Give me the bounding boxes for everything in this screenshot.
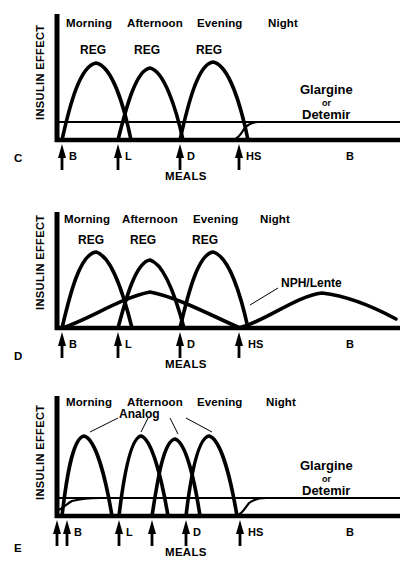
reg-label-3-c: REG xyxy=(196,43,222,57)
panel-letter-e: E xyxy=(14,542,22,554)
tod-label-night-e: Night xyxy=(266,396,296,408)
meal-marker-hs-d: HS xyxy=(235,332,263,358)
panel-e: INSULIN EFFECT Morning Afternoon Evening… xyxy=(0,376,407,566)
reg-label-1-d: REG xyxy=(78,233,104,247)
tod-label-night-d: Night xyxy=(260,213,290,225)
meal-label-b1-e: B xyxy=(74,526,82,538)
analog-peak-1-e xyxy=(62,436,112,516)
meal-marker-b1a-e xyxy=(53,520,61,546)
insulin-effect-figure: INSULIN EFFECT Morning Afternoon Evening… xyxy=(0,0,407,568)
meal-label-l-c: L xyxy=(125,150,132,162)
basal-glargine-curve-c xyxy=(232,122,400,140)
reg-label-1-c: REG xyxy=(80,43,106,57)
y-axis-label-e: INSULIN EFFECT xyxy=(34,405,46,500)
panel-letter-c: C xyxy=(14,152,22,164)
panel-d: INSULIN EFFECT Morning Afternoon Evening… xyxy=(0,188,407,378)
tod-label-afternoon-c: Afternoon xyxy=(127,17,183,29)
analog-leader-3-e xyxy=(170,418,178,434)
meal-marker-d-c: D xyxy=(176,144,195,170)
meal-marker-hs-c: HS xyxy=(235,144,261,170)
meal-label-d-c: D xyxy=(187,150,195,162)
panel-letter-d: D xyxy=(14,350,22,362)
meals-title-e: MEALS xyxy=(165,546,207,558)
nph-hump-2-d xyxy=(239,293,396,328)
basal-glargine-curve-e xyxy=(234,498,400,516)
basal-label-line1-e: Glargine xyxy=(300,458,353,473)
meal-label-hs-e: HS xyxy=(248,526,263,538)
meal-marker-d-d: D xyxy=(176,332,195,358)
meal-label-b1-c: B xyxy=(69,150,77,162)
meal-label-b2-e: B xyxy=(346,526,354,538)
y-axis-label-c: INSULIN EFFECT xyxy=(34,25,46,120)
meal-label-l-d: L xyxy=(125,338,132,350)
tod-label-afternoon-d: Afternoon xyxy=(122,213,178,225)
panel-c: INSULIN EFFECT Morning Afternoon Evening… xyxy=(0,0,407,190)
analog-peak-4-e xyxy=(186,436,237,516)
tod-label-morning-c: Morning xyxy=(66,17,112,29)
y-axis-label-d: INSULIN EFFECT xyxy=(34,215,46,310)
meal-label-l-e: L xyxy=(126,526,133,538)
meal-marker-l-d: L xyxy=(114,332,132,358)
meal-marker-d-e: D xyxy=(182,520,201,546)
meal-marker-l-e: L xyxy=(115,520,133,546)
meal-label-hs-d: HS xyxy=(248,338,263,350)
meal-marker-l-c: L xyxy=(114,144,132,170)
meal-label-b2-d: B xyxy=(346,338,354,350)
basal-label-line3-e: Detemir xyxy=(302,483,350,498)
tod-label-evening-d: Evening xyxy=(193,213,238,225)
tod-label-night-c: Night xyxy=(268,17,298,29)
meal-label-d-d: D xyxy=(187,338,195,350)
basal-label-line1-c: Glargine xyxy=(300,82,353,97)
meals-title-d: MEALS xyxy=(165,358,207,370)
meals-title-c: MEALS xyxy=(165,170,207,182)
meal-label-b1-d: B xyxy=(69,338,77,350)
nph-hump-1-d xyxy=(62,292,240,328)
meal-label-d-e: D xyxy=(193,526,201,538)
reg-label-3-d: REG xyxy=(192,233,218,247)
nph-label-d: NPH/Lente xyxy=(281,276,342,290)
meal-marker-hs-e: HS xyxy=(236,520,263,546)
nph-leader-line-d xyxy=(250,288,278,305)
tod-label-evening-c: Evening xyxy=(197,17,242,29)
tod-label-evening-e: Evening xyxy=(197,396,242,408)
tod-label-morning-e: Morning xyxy=(66,396,112,408)
reg-label-2-d: REG xyxy=(130,233,156,247)
meal-marker-b1b-e: B xyxy=(63,520,82,546)
analog-label-e: Analog xyxy=(119,407,160,421)
analog-leader-1-e xyxy=(90,418,118,432)
analog-leader-4-e xyxy=(186,418,212,432)
meal-marker-b1-c: B xyxy=(58,144,77,170)
tod-label-morning-d: Morning xyxy=(64,213,110,225)
analog-peak-2-e xyxy=(119,436,168,516)
reg-peak-3-c xyxy=(180,62,248,140)
meal-label-b2-c: B xyxy=(346,150,354,162)
meal-marker-snack-e xyxy=(148,520,156,546)
meal-marker-b1-d: B xyxy=(58,332,77,358)
reg-label-2-c: REG xyxy=(134,43,160,57)
basal-label-line3-c: Detemir xyxy=(302,107,350,122)
meal-label-hs-c: HS xyxy=(246,150,261,162)
